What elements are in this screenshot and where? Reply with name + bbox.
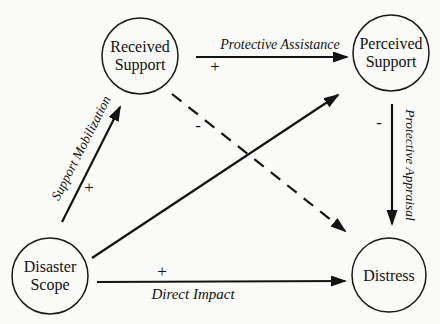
node-perceived-support: Perceived Support	[353, 15, 429, 91]
disaster-scope-label-line1: Disaster	[24, 258, 77, 275]
received-support-label-line1: Received	[110, 38, 170, 55]
edge-direct-impact: + Direct Impact	[97, 262, 345, 302]
node-disaster-scope: Disaster Scope	[12, 238, 88, 314]
distress-label: Distress	[363, 267, 415, 284]
perceived-support-label-line2: Support	[366, 53, 417, 71]
node-received-support: Received Support	[102, 18, 178, 94]
direct-impact-sign: +	[157, 262, 167, 281]
protective-appraisal-label: Protective Appraisal	[403, 108, 418, 221]
edge-protective-assistance: Protective Assistance +	[196, 37, 347, 76]
edge-protective-appraisal: Protective Appraisal -	[376, 104, 418, 224]
support-mobilization-sign: +	[84, 178, 94, 197]
direct-impact-arrow	[97, 281, 345, 282]
protective-assistance-sign: +	[210, 57, 220, 76]
direct-impact-label: Direct Impact	[150, 286, 235, 302]
edge-received-to-distress: -	[172, 94, 345, 231]
edge-scope-to-perceived	[92, 95, 338, 258]
perceived-support-label-line1: Perceived	[359, 35, 422, 52]
scope-to-perceived-arrow	[92, 95, 338, 258]
diagram-svg: Protective Assistance + Support Mobiliza…	[0, 0, 440, 324]
received-to-distress-dashed-arrow	[172, 94, 345, 231]
edge-support-mobilization: Support Mobilization +	[48, 93, 120, 222]
disaster-scope-label-line2: Scope	[30, 276, 69, 294]
received-support-label-line2: Support	[115, 56, 166, 74]
protective-appraisal-sign: -	[376, 113, 382, 132]
received-to-distress-sign: -	[195, 116, 201, 135]
node-distress: Distress	[352, 238, 426, 312]
path-model-diagram: Protective Assistance + Support Mobiliza…	[0, 0, 440, 324]
protective-assistance-label: Protective Assistance	[219, 37, 339, 52]
